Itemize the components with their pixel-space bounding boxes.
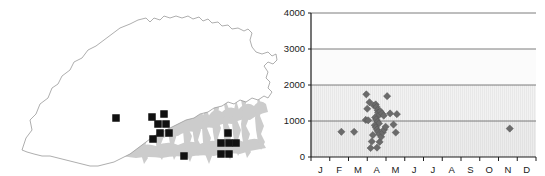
x-tick-label-m-2: M	[354, 164, 362, 175]
map-record-marker	[225, 139, 233, 147]
bhutan-map	[0, 0, 278, 176]
distribution-map-panel	[0, 0, 278, 176]
map-record-marker	[148, 113, 156, 121]
x-tick-label-s-8: S	[467, 164, 473, 175]
x-tick-label-a-3: A	[373, 164, 380, 175]
figure: 01000200030004000 JFMAMJJASOND	[0, 0, 545, 176]
elevation-scatter-panel: 01000200030004000 JFMAMJJASOND	[278, 0, 545, 176]
band-2000-3000	[311, 49, 536, 85]
x-tick-label-d-11: D	[523, 164, 530, 175]
map-record-marker	[224, 129, 232, 137]
x-tick-label-f-1: F	[336, 164, 342, 175]
x-tick-label-j-5: J	[412, 164, 417, 175]
band-0-1000	[311, 121, 536, 157]
band-1000-2000	[311, 85, 536, 121]
map-record-marker	[160, 110, 168, 118]
y-tick-label: 0	[300, 151, 305, 162]
map-record-marker	[162, 120, 170, 128]
map-record-marker	[165, 129, 173, 137]
x-tick-label-m-4: M	[391, 164, 399, 175]
x-tick-label-n-10: N	[504, 164, 511, 175]
map-record-marker	[154, 120, 162, 128]
map-record-marker	[149, 135, 157, 143]
y-tick-label: 2000	[284, 79, 305, 90]
map-record-marker	[217, 139, 225, 147]
y-tick-label: 1000	[284, 115, 305, 126]
y-tick-label: 4000	[284, 7, 305, 18]
x-tick-label-j-0: J	[318, 164, 323, 175]
y-axis-ticks: 01000200030004000	[284, 7, 311, 162]
map-record-marker	[180, 152, 188, 160]
x-tick-label-o-9: O	[485, 164, 492, 175]
band-3000-4000	[311, 13, 536, 49]
map-record-marker	[112, 114, 120, 122]
x-tick-label-j-6: J	[431, 164, 436, 175]
elevation-by-month-scatter: 01000200030004000 JFMAMJJASOND	[278, 0, 545, 176]
y-tick-label: 3000	[284, 43, 305, 54]
x-tick-label-a-7: A	[448, 164, 455, 175]
map-record-marker	[217, 150, 225, 158]
map-record-marker	[232, 139, 240, 147]
map-record-marker	[225, 150, 233, 158]
map-record-marker	[156, 129, 164, 137]
x-axis-ticks: JFMAMJJASOND	[311, 157, 536, 175]
